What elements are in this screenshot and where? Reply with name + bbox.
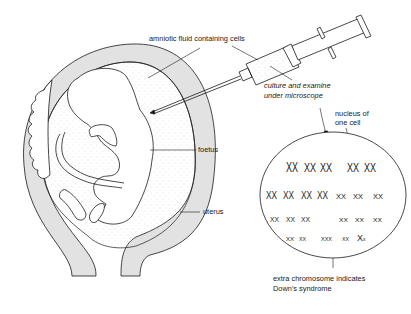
label-foetus: foetus	[198, 145, 218, 154]
svg-text:XX: XX	[373, 217, 382, 223]
label-nucleus-line1: nucleus of	[335, 109, 369, 118]
svg-text:XX: XX	[301, 190, 312, 201]
amniotic-leader-syringe	[232, 46, 258, 60]
svg-text:XX: XX	[299, 236, 307, 242]
svg-text:XX: XX	[347, 161, 359, 175]
svg-text:XX: XX	[364, 161, 376, 175]
svg-text:XX: XX	[270, 215, 280, 224]
trisomy-chromosome-group: XXX	[321, 236, 333, 242]
svg-text:XX: XX	[266, 190, 277, 201]
svg-text:XX: XX	[317, 190, 328, 201]
svg-text:XX: XX	[286, 236, 295, 242]
svg-text:XX: XX	[286, 159, 298, 175]
svg-text:XX: XX	[301, 216, 310, 223]
label-amniotic-fluid: amniotic fluid containing cells	[149, 34, 245, 43]
svg-text:XX: XX	[339, 217, 348, 223]
svg-text:XX: XX	[286, 216, 295, 223]
cell-nucleus	[260, 132, 406, 258]
label-nucleus-line2: one cell	[335, 118, 360, 127]
amniocentesis-diagram: XX XX XX XX XX XX XX XX XX XX XX XX XX X…	[0, 0, 411, 314]
svg-text:XX: XX	[283, 190, 294, 201]
svg-text:XX: XX	[336, 192, 347, 201]
label-culture-line1: culture and examine	[264, 81, 331, 90]
label-extra-chromosome-line2: Down's syndrome	[273, 284, 332, 293]
svg-text:XX: XX	[320, 161, 332, 175]
svg-text:XX: XX	[353, 192, 364, 201]
svg-text:XX: XX	[304, 161, 316, 175]
svg-text:XX: XX	[355, 217, 364, 223]
nucleus-arrow	[320, 108, 326, 134]
svg-text:XX: XX	[373, 192, 384, 201]
label-extra-chromosome-line1: extra chromosome indicates	[273, 274, 365, 283]
svg-text:XX: XX	[342, 236, 350, 242]
label-culture-line2: under microscope	[264, 91, 323, 100]
label-uterus: uterus	[203, 207, 224, 216]
